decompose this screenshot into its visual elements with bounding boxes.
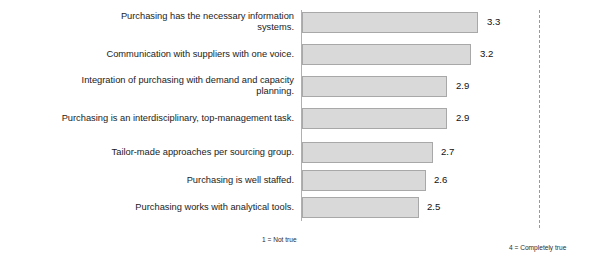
scale-max-caption: 4 = Completely true: [509, 243, 566, 252]
scale-max-marker-line: [539, 10, 540, 228]
scale-min-caption: 1 = Not true: [262, 235, 297, 244]
table-row: Communication with suppliers with one vo…: [0, 44, 597, 65]
bar-rows: Purchasing has the necessary information…: [0, 0, 597, 225]
row-label: Integration of purchasing with demand an…: [44, 75, 294, 97]
bar-value-label: 3.2: [480, 48, 493, 60]
bar: [302, 12, 478, 33]
bar-chart: Purchasing has the necessary information…: [0, 0, 597, 257]
row-label: Purchasing is well staffed.: [44, 175, 294, 186]
bar: [302, 44, 471, 65]
table-row: Purchasing works with analytical tools. …: [0, 197, 597, 218]
bar: [302, 76, 447, 97]
table-row: Tailor-made approaches per sourcing grou…: [0, 142, 597, 163]
table-row: Purchasing is an interdisciplinary, top-…: [0, 108, 597, 129]
table-row: Purchasing has the necessary information…: [0, 12, 597, 33]
bar: [302, 197, 419, 218]
row-label: Purchasing is an interdisciplinary, top-…: [44, 113, 294, 124]
row-label: Communication with suppliers with one vo…: [44, 49, 294, 60]
bar: [302, 108, 447, 129]
bar-value-label: 2.7: [441, 146, 454, 158]
row-label: Tailor-made approaches per sourcing grou…: [44, 147, 294, 158]
bar: [302, 170, 426, 191]
bar-value-label: 2.9: [456, 112, 469, 124]
bar: [302, 142, 433, 163]
bar-value-label: 2.6: [434, 174, 447, 186]
row-label: Purchasing works with analytical tools.: [44, 202, 294, 213]
table-row: Integration of purchasing with demand an…: [0, 76, 597, 97]
bar-value-label: 3.3: [487, 16, 500, 28]
table-row: Purchasing is well staffed. 2.6: [0, 170, 597, 191]
bar-value-label: 2.9: [456, 80, 469, 92]
row-label: Purchasing has the necessary information…: [44, 11, 294, 33]
bar-value-label: 2.5: [427, 201, 440, 213]
